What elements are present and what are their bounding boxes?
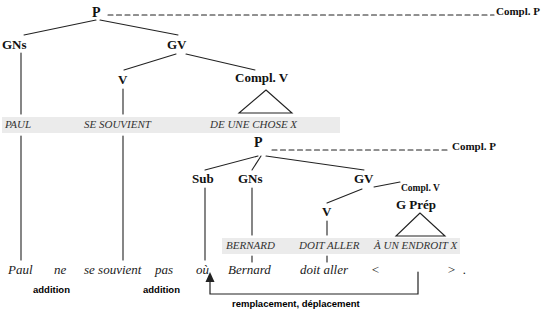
node-embedded-gv: GV <box>354 172 374 185</box>
relation-embedded-compl-p: Compl. P <box>452 141 496 152</box>
node-embedded-v: V <box>322 205 331 218</box>
terminal-embedded-2: À UN ENDROIT X <box>374 240 457 251</box>
node-embedded-p: P <box>254 136 263 150</box>
relation-matrix-compl-p: Compl. P <box>496 6 540 17</box>
syntax-tree-diagram: P Compl. P GNs GV V Compl. V PAUL SE SOU… <box>0 0 559 313</box>
surface-word-bernard: Bernard <box>228 263 271 276</box>
terminal-embedded-1: DOIT ALLER <box>299 240 359 251</box>
node-embedded-g-prep: G Prép <box>396 198 436 211</box>
surface-trace-open: < <box>371 263 380 276</box>
operation-addition-1: addition <box>33 285 70 295</box>
surface-word-paul: Paul <box>8 263 33 276</box>
surface-word-doit-aller: doit aller <box>300 263 348 276</box>
terminal-embedded-0: BERNARD <box>226 240 275 251</box>
operation-addition-2: addition <box>143 285 180 295</box>
node-matrix-v: V <box>118 73 127 86</box>
terminal-matrix-1: SE SOUVIENT <box>84 119 151 130</box>
node-matrix-compl-v: Compl. V <box>235 71 288 84</box>
node-embedded-sub: Sub <box>192 172 214 185</box>
node-embedded-compl-v: Compl. V <box>401 184 440 194</box>
node-embedded-gns: GNs <box>238 172 263 185</box>
operation-remplacement-deplacement: remplacement, déplacement <box>232 299 360 309</box>
surface-trace-close: > <box>447 263 456 276</box>
surface-word-ne: ne <box>54 263 66 276</box>
node-matrix-p: P <box>92 6 101 20</box>
terminal-matrix-2: DE UNE CHOSE X <box>210 119 297 130</box>
terminal-matrix-0: PAUL <box>5 119 31 130</box>
surface-word-pas: pas <box>155 263 173 276</box>
node-matrix-gns: GNs <box>2 38 27 51</box>
surface-word-ou: où <box>196 263 209 276</box>
surface-period: . <box>463 263 466 276</box>
surface-word-se-souvient: se souvient <box>84 263 141 276</box>
node-matrix-gv: GV <box>167 38 187 51</box>
